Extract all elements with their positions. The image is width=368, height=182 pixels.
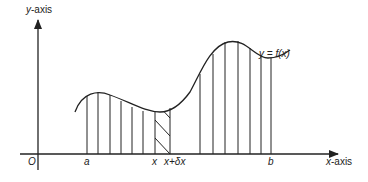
area-under-curve-diagram: y-axis x-axis O y = f(x) a x x+δx b (0, 0, 368, 182)
x-axis-label: x-axis (325, 156, 352, 167)
axes (20, 20, 338, 170)
y-axis-label: y-axis (25, 4, 52, 15)
curve-y-equals-f-of-x (75, 41, 290, 112)
hatched-strip (155, 60, 170, 154)
tick-label-x-plus-dx: x+δx (163, 156, 186, 167)
tick-label-b: b (268, 156, 274, 167)
curve-label: y = f(x) (258, 48, 290, 59)
area-strips (87, 41, 271, 154)
origin-label: O (28, 156, 36, 167)
tick-label-x: x (151, 156, 158, 167)
tick-label-a: a (84, 156, 90, 167)
